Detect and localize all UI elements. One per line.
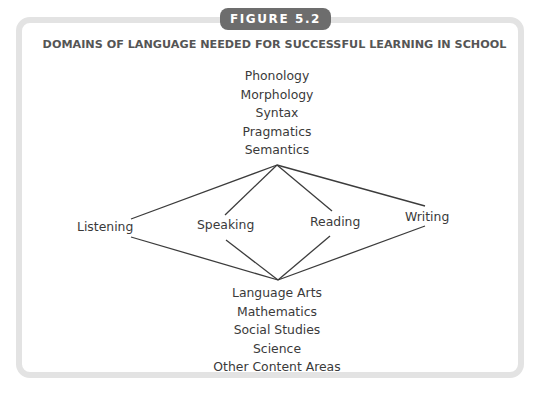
domain-syntax: Syntax xyxy=(177,104,377,123)
line-domains-to-listening xyxy=(131,165,277,219)
domain-morphology: Morphology xyxy=(177,86,377,105)
modality-speaking: Speaking xyxy=(197,217,254,232)
figure-label-tab: FIGURE 5.2 xyxy=(220,8,331,30)
content-science: Science xyxy=(177,340,377,359)
line-domains-to-speaking xyxy=(225,165,277,215)
domain-semantics: Semantics xyxy=(177,141,377,160)
line-speaking-to-content xyxy=(226,240,278,280)
language-domains-list: Phonology Morphology Syntax Pragmatics S… xyxy=(177,67,377,160)
line-writing-to-content xyxy=(278,226,425,280)
content-other: Other Content Areas xyxy=(177,358,377,377)
line-reading-to-content xyxy=(278,236,330,280)
line-domains-to-writing xyxy=(277,165,425,206)
figure-title: DOMAINS OF LANGUAGE NEEDED FOR SUCCESSFU… xyxy=(0,38,549,51)
domain-pragmatics: Pragmatics xyxy=(177,123,377,142)
modality-listening: Listening xyxy=(77,219,133,234)
content-areas-list: Language Arts Mathematics Social Studies… xyxy=(177,284,377,377)
line-listening-to-content xyxy=(131,237,278,280)
content-language-arts: Language Arts xyxy=(177,284,377,303)
modality-writing: Writing xyxy=(405,209,449,224)
modality-reading: Reading xyxy=(310,214,360,229)
content-social-studies: Social Studies xyxy=(177,321,377,340)
content-mathematics: Mathematics xyxy=(177,303,377,322)
line-domains-to-reading xyxy=(277,165,332,211)
domain-phonology: Phonology xyxy=(177,67,377,86)
